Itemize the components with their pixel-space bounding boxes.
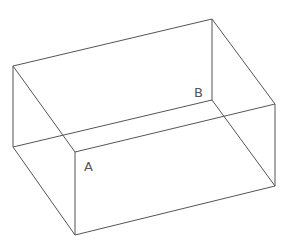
- edge-top-right: [212, 19, 275, 104]
- label-b: B: [194, 85, 203, 100]
- box-edges: [13, 19, 275, 235]
- edge-bottom-left: [13, 147, 75, 235]
- edge-inner-right: [212, 100, 275, 186]
- edge-bottom-front: [75, 186, 275, 235]
- edge-top-back: [13, 19, 212, 66]
- edge-top-left: [13, 66, 75, 152]
- label-a: A: [84, 159, 93, 174]
- box-diagram: A B: [0, 0, 292, 246]
